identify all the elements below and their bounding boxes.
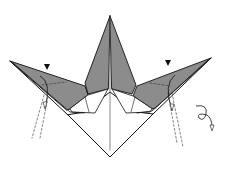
model [10, 16, 211, 157]
push-arrow-left-icon [44, 64, 50, 70]
turn-over-arrowhead [210, 125, 214, 131]
center-point-left [85, 16, 110, 94]
right-wing [133, 58, 211, 109]
center-point-right [110, 16, 136, 94]
turn-over-icon [196, 106, 212, 128]
fold-arrowhead-right [170, 104, 174, 111]
origami-diagram [0, 0, 227, 170]
left-wing [10, 61, 88, 110]
push-arrow-right-icon [165, 60, 171, 66]
